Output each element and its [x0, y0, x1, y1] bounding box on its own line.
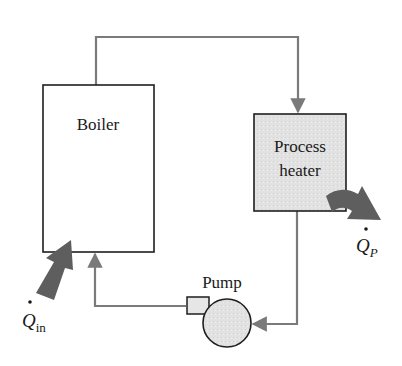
pump: Pump: [187, 273, 251, 347]
pump-label: Pump: [202, 273, 242, 292]
pipe-heater-to-pump: [253, 211, 297, 324]
heat-process-label: QP: [356, 235, 378, 260]
heat-in-subscript: in: [36, 320, 47, 335]
pipe-pump-to-boiler: [95, 254, 186, 306]
boiler-label: Boiler: [77, 115, 120, 134]
process-heater-label-line2: heater: [279, 161, 321, 180]
heat-process-symbol: Q: [356, 235, 370, 256]
heat-in-symbol: Q: [22, 310, 36, 331]
heat-in-dot: [28, 300, 32, 304]
pump-body: [203, 299, 251, 347]
process-heater-label-line1: Process: [274, 137, 326, 156]
boiler: Boiler: [43, 85, 154, 252]
heat-in-label: Qin: [22, 310, 46, 335]
heat-process-dot: [364, 227, 368, 231]
boiler-box: [43, 85, 154, 252]
heat-process-subscript: P: [369, 245, 378, 260]
cycle-diagram: Boiler Process heater Pump Qin QP: [0, 0, 402, 366]
